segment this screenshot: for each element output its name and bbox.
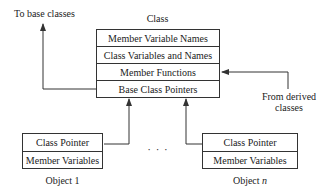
from-derived-label-line1: From derived <box>258 92 320 102</box>
class-row-base-class-pointers: Base Class Pointers <box>97 81 219 98</box>
objectn-box: Class Pointer Member Variables <box>202 133 298 169</box>
class-row-member-functions: Member Functions <box>97 64 219 81</box>
objectn-member-variables: Member Variables <box>203 152 297 169</box>
object1-member-variables: Member Variables <box>23 152 102 169</box>
to-base-classes-label: To base classes <box>14 9 75 19</box>
objectn-label: Object n <box>202 176 298 186</box>
object1-class-pointer: Class Pointer <box>23 134 102 152</box>
from-derived-arrow <box>222 72 288 89</box>
objectn-label-prefix: Object <box>233 175 262 186</box>
object1-pointer-arrow <box>104 99 129 144</box>
objectn-class-pointer: Class Pointer <box>203 134 297 152</box>
class-box: Member Variable Names Class Variables an… <box>96 29 220 98</box>
class-title: Class <box>96 14 219 24</box>
ellipsis: · · · <box>142 144 174 155</box>
class-row-member-variable-names: Member Variable Names <box>97 30 219 47</box>
from-derived-label-line2: classes <box>258 103 320 113</box>
object1-box: Class Pointer Member Variables <box>22 133 103 169</box>
objectn-label-italic: n <box>262 175 267 186</box>
object1-label: Object 1 <box>22 176 103 186</box>
class-row-class-variables: Class Variables and Names <box>97 47 219 64</box>
